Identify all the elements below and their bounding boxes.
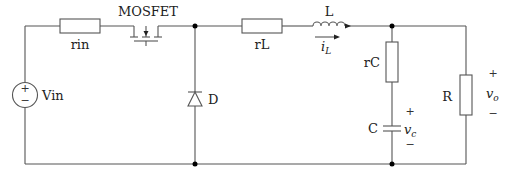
junction-top-cap: [390, 24, 395, 29]
diode-label: D: [208, 92, 218, 107]
mosfet-arrow-icon: [144, 31, 149, 36]
capacitor-voltage: vc: [404, 122, 416, 139]
vc-minus: −: [405, 138, 414, 151]
resistor-icon: [460, 75, 472, 115]
diode-d: D: [188, 92, 218, 107]
junction-bottom-cap: [390, 162, 395, 167]
vo-minus: −: [488, 107, 497, 120]
vo-label: vo: [486, 86, 499, 103]
wires: [25, 26, 466, 164]
circuit-diagram: + − Vin rin MOSFET D rL L: [0, 0, 512, 175]
rc-label: rC: [364, 55, 380, 70]
mosfet-switch: MOSFET: [118, 4, 178, 46]
resistor-rin: rin: [60, 19, 100, 52]
voltage-source-vin: + − Vin: [13, 82, 65, 108]
resistor-rc: rC: [364, 42, 398, 82]
inductor-current: iL: [321, 39, 331, 56]
rl-label: rL: [255, 37, 270, 52]
resistor-load-r: R: [442, 75, 472, 115]
resistor-rl: rL: [242, 19, 282, 52]
inductor-l: L iL: [313, 4, 351, 56]
vin-minus: −: [20, 94, 29, 107]
wire-arrow-icon: [345, 24, 351, 29]
junction-bottom-diode: [193, 162, 198, 167]
diode-icon: [188, 92, 202, 106]
capacitor-label: C: [368, 121, 378, 136]
vo-plus: +: [488, 67, 497, 80]
mosfet-label: MOSFET: [118, 4, 178, 19]
load-label: R: [442, 89, 453, 104]
inductor-icon: [313, 22, 345, 26]
resistor-icon: [386, 42, 398, 82]
inductor-label: L: [325, 4, 334, 19]
junction-top-diode: [193, 24, 198, 29]
vc-plus: +: [405, 105, 414, 118]
resistor-icon: [60, 19, 100, 33]
vin-label: Vin: [41, 88, 64, 103]
resistor-icon: [242, 19, 282, 33]
output-voltage: + vo −: [486, 67, 499, 120]
rin-label: rin: [71, 37, 90, 52]
current-arrow-icon: [334, 35, 340, 40]
